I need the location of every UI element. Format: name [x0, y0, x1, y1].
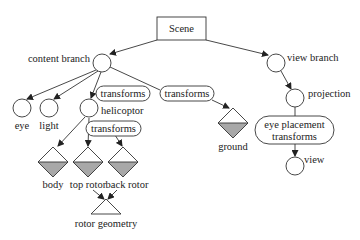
ground-shade: [218, 123, 248, 138]
content-branch-node: [93, 54, 111, 72]
helicopter-transform-label: transforms: [101, 88, 146, 99]
scene-label: Scene: [169, 23, 194, 34]
projection-node: [286, 89, 304, 107]
view-label: view: [304, 154, 325, 165]
rotor-transform-label: transforms: [91, 123, 136, 134]
view-branch-label: view branch: [287, 52, 339, 63]
view-branch-node: [267, 54, 285, 72]
edge-scene-content: [110, 40, 157, 54]
edge-helicopter-body: [58, 117, 85, 146]
rotor-geometry-label: rotor geometry: [75, 218, 138, 229]
view-node: [286, 157, 304, 175]
edge-content-ground-b: [212, 100, 229, 108]
ground-node: [218, 108, 248, 138]
rotor-geometry-triangle: [91, 199, 121, 214]
projection-label: projection: [308, 88, 351, 99]
top-rotor-node: [73, 147, 103, 177]
scene-node: Scene: [157, 17, 206, 40]
edge-scene-view: [206, 40, 268, 55]
helicopter-node: [80, 99, 98, 117]
light-node: [40, 99, 58, 117]
ground-label: ground: [218, 141, 248, 152]
eye-label: eye: [15, 120, 30, 131]
edge-backrotor-geometry: [108, 190, 117, 199]
ground-transform-label: transforms: [165, 88, 210, 99]
body-shade: [38, 162, 68, 177]
edge-helicopter-backrotor: [115, 135, 122, 146]
edge-view-projection: [281, 71, 291, 89]
top-rotor-label: top rotor: [70, 179, 107, 190]
eye-node: [13, 99, 31, 117]
helicopter-label: helicoptor: [101, 105, 144, 116]
edge-toprotor-geometry: [93, 190, 104, 199]
eye-placement-line1: eye placement: [264, 119, 324, 130]
content-branch-label: content branch: [28, 53, 91, 64]
back-rotor-label: back rotor: [106, 179, 149, 190]
eye-placement-line2: transforms: [272, 131, 317, 142]
top-rotor-shade: [73, 162, 103, 177]
body-label: body: [43, 179, 65, 190]
body-node: [38, 147, 68, 177]
back-rotor-shade: [108, 162, 138, 177]
back-rotor-node: [108, 147, 138, 177]
light-label: light: [39, 120, 58, 131]
scene-graph-diagram: Scene content branch view branch eye lig…: [0, 0, 360, 240]
